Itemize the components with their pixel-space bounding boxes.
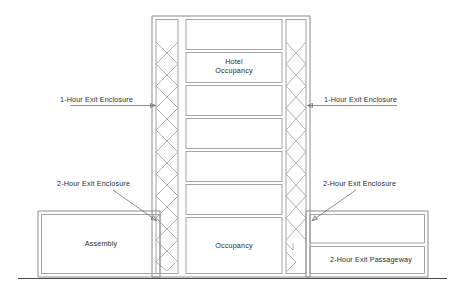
right-stair-zigzag [286,42,306,272]
label-hotel-occupancy-line1: Hotel [225,57,243,66]
leader-two-hour-right [312,190,356,221]
leader-two-hour-left [113,190,157,221]
floor-7 [186,20,282,50]
leader-one-hour-right [308,103,398,107]
left-stair-zigzag [156,42,178,271]
label-assembly: Assembly [85,239,118,248]
floor-2 [186,185,282,215]
floor-5 [186,86,282,116]
right-wing [306,211,428,277]
right-stair-shaft [286,20,306,274]
label-exit-passageway: 2-Hour Exit Passageway [330,255,412,264]
label-one-hour-exit-enclosure-left: 1-Hour Exit Enclosure [60,95,133,104]
left-stair-shaft [156,20,178,274]
diagram-canvas: Hotel Occupancy Occupancy Assembly 2-Hou… [0,0,464,293]
label-two-hour-exit-enclosure-left: 2-Hour Exit Enclosure [57,179,130,188]
leader-one-hour-left [70,103,156,107]
label-two-hour-exit-enclosure-right: 2-Hour Exit Enclosure [323,179,396,188]
floor-4 [186,119,282,149]
label-hotel-occupancy-line2: Occupancy [215,66,253,75]
label-one-hour-exit-enclosure-right: 1-Hour Exit Enclosure [324,95,397,104]
floor-3 [186,152,282,182]
label-occupancy: Occupancy [215,241,253,250]
